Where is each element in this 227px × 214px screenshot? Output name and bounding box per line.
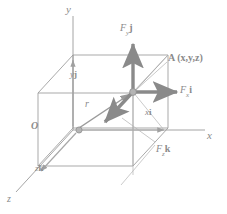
force-z-subscript: z	[162, 150, 165, 157]
point-a-label: A (x,y,z)	[168, 53, 203, 63]
force-y-label: Fyj	[120, 23, 132, 36]
force-z-label: Fzk	[156, 144, 170, 157]
construction-lines	[121, 55, 168, 185]
force-x-subscript: x	[186, 91, 189, 98]
force-vector-diagram: y x z O A (x,y,z) Fyj Fxi Fzk r xi yj zk	[0, 0, 227, 214]
force-y-subscript: y	[126, 29, 129, 36]
origin-dot	[76, 127, 82, 133]
force-z-unit: k	[165, 143, 171, 154]
component-y-label: yj	[70, 70, 77, 79]
force-x-label: Fxi	[180, 85, 192, 98]
leader-point-a	[136, 62, 167, 90]
axis-label-x: x	[207, 130, 212, 141]
origin-label: O	[31, 121, 38, 131]
axis-label-z: z	[7, 194, 11, 204]
box-edge-tl	[38, 55, 73, 93]
position-vector-label: r	[85, 99, 89, 109]
point-a-dot	[130, 89, 137, 96]
constr-a-diag	[133, 55, 168, 92]
box-edge-bl	[38, 128, 73, 166]
axis-label-y: y	[66, 4, 71, 15]
diagram-canvas	[0, 0, 227, 214]
component-x-label: xi	[145, 108, 152, 117]
component-z-arrow	[41, 133, 76, 171]
component-z-label: zk	[35, 164, 44, 173]
component-y-unit: j	[74, 69, 77, 79]
z-axis-line	[16, 130, 73, 192]
component-z-unit: k	[39, 163, 44, 173]
component-x-unit: i	[149, 107, 152, 117]
constr-fz-leader	[121, 145, 155, 185]
force-y-unit: j	[129, 22, 132, 33]
force-x-unit: i	[189, 84, 192, 95]
force-vectors	[105, 44, 177, 122]
